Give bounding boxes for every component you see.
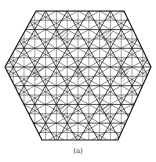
hexagonal-lattice-diagram xyxy=(0,0,156,162)
figure-caption: (a) xyxy=(0,147,156,155)
lattice-lines xyxy=(0,0,156,162)
